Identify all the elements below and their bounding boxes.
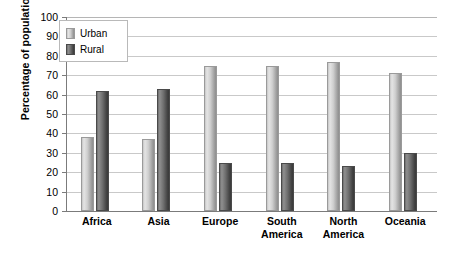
bar-group	[128, 17, 190, 211]
bar-rural-south-america	[281, 163, 294, 212]
bar-group	[313, 17, 375, 211]
bar-urban-europe	[204, 66, 217, 212]
y-tick-label: 60	[46, 89, 58, 101]
y-axis-ticks: 1009080706050403020100	[0, 17, 62, 211]
y-tick-label: 80	[46, 50, 58, 62]
bar-rural-oceania	[404, 153, 417, 211]
bar-chart: Percentage of population 100908070605040…	[0, 0, 449, 257]
bar-urban-south-america	[266, 66, 279, 212]
legend-swatch-rural-icon	[66, 44, 75, 55]
bar-urban-oceania	[389, 73, 402, 211]
y-tick-label: 90	[46, 30, 58, 42]
bar-urban-asia	[142, 139, 155, 211]
x-axis-label: Asia	[128, 215, 190, 228]
y-tick-label: 50	[46, 108, 58, 120]
legend-label-rural: Rural	[80, 44, 104, 55]
bar-urban-africa	[81, 137, 94, 211]
legend-item-rural: Rural	[66, 41, 122, 57]
x-axis-label: NorthAmerica	[313, 215, 375, 241]
bar-group	[189, 17, 251, 211]
x-axis-label: Oceania	[374, 215, 436, 228]
chart-legend: Urban Rural	[59, 20, 128, 62]
y-tick-label: 10	[46, 186, 58, 198]
bar-group	[251, 17, 313, 211]
y-tick-label: 40	[46, 127, 58, 139]
bar-rural-africa	[96, 91, 109, 211]
y-tick-label: 20	[46, 166, 58, 178]
y-tick-label: 30	[46, 147, 58, 159]
y-tick-label: 100	[40, 11, 58, 23]
x-axis-label: SouthAmerica	[251, 215, 313, 241]
legend-swatch-urban-icon	[66, 28, 75, 39]
legend-label-urban: Urban	[80, 28, 107, 39]
bar-urban-north-america	[327, 62, 340, 211]
x-axis-label: Europe	[189, 215, 251, 228]
bar-rural-north-america	[342, 166, 355, 211]
y-tick-label: 0	[52, 205, 58, 217]
bar-group	[374, 17, 436, 211]
x-axis-label: Africa	[66, 215, 128, 228]
bar-rural-europe	[219, 163, 232, 212]
legend-item-urban: Urban	[66, 25, 122, 41]
x-axis-labels: AfricaAsiaEuropeSouthAmericaNorthAmerica…	[66, 215, 436, 257]
y-tick-label: 70	[46, 69, 58, 81]
bar-rural-asia	[157, 89, 170, 211]
